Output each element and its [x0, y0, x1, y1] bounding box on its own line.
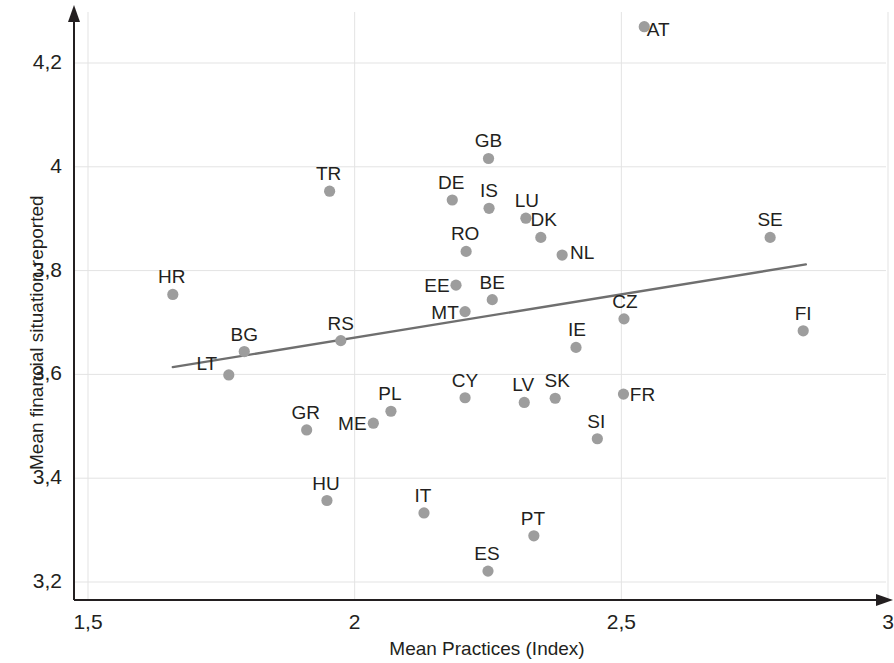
- y-axis-title: Mean financial situation reported: [26, 195, 48, 470]
- data-point: [321, 495, 332, 506]
- data-point: [483, 153, 494, 164]
- chart-canvas: [0, 0, 894, 663]
- point-label: NL: [552, 243, 612, 262]
- x-axis-title: Mean Practices (Index): [287, 638, 687, 660]
- point-label: BG: [214, 325, 274, 344]
- data-point: [167, 289, 178, 300]
- y-tick-label: 4: [50, 154, 62, 178]
- y-tick-label: 3,2: [33, 569, 62, 593]
- point-label: CZ: [595, 292, 655, 311]
- y-tick-label: 4,2: [33, 50, 62, 74]
- data-point: [459, 392, 470, 403]
- point-label: RO: [435, 224, 495, 243]
- data-point: [618, 313, 629, 324]
- data-point: [301, 424, 312, 435]
- data-point: [324, 186, 335, 197]
- point-label: BE: [462, 273, 522, 292]
- point-label: HU: [296, 474, 356, 493]
- x-tick-label: 3: [848, 610, 894, 634]
- point-label: GR: [276, 403, 336, 422]
- gridlines: [74, 12, 888, 600]
- data-point: [239, 346, 250, 357]
- data-point: [487, 294, 498, 305]
- point-label: IE: [547, 320, 607, 339]
- data-point: [535, 232, 546, 243]
- point-label: LV: [493, 375, 553, 394]
- data-point: [528, 530, 539, 541]
- point-label: TR: [299, 164, 359, 183]
- point-label: EE: [407, 276, 467, 295]
- point-label: ES: [457, 544, 517, 563]
- point-label: FI: [773, 304, 833, 323]
- point-label: FR: [612, 385, 672, 404]
- x-tick-label: 1,5: [48, 610, 128, 634]
- point-label: SE: [740, 210, 800, 229]
- data-point: [570, 342, 581, 353]
- point-label: GB: [459, 131, 519, 150]
- data-point: [447, 194, 458, 205]
- point-label: HR: [142, 267, 202, 286]
- data-point: [461, 246, 472, 257]
- x-tick-label: 2: [315, 610, 395, 634]
- scatter-chart: 3,23,43,63,844,21,522,53 ATGBTRDEISLUDKS…: [0, 0, 894, 663]
- data-points: [167, 21, 809, 577]
- data-point: [418, 507, 429, 518]
- data-point: [765, 232, 776, 243]
- point-label: MT: [415, 303, 475, 322]
- data-point: [519, 397, 530, 408]
- data-point: [483, 203, 494, 214]
- data-point: [798, 325, 809, 336]
- point-label: PL: [360, 384, 420, 403]
- data-point: [592, 433, 603, 444]
- point-label: IT: [393, 486, 453, 505]
- plot-area: 3,23,43,63,844,21,522,53 ATGBTRDEISLUDKS…: [0, 0, 894, 663]
- point-label: CY: [435, 371, 495, 390]
- point-label: LU: [497, 191, 557, 210]
- point-label: LT: [177, 354, 237, 373]
- axis-lines: [68, 5, 893, 606]
- point-label: DK: [514, 210, 574, 229]
- point-label: PT: [503, 509, 563, 528]
- point-label: RS: [311, 314, 371, 333]
- data-point: [482, 566, 493, 577]
- point-label: AT: [628, 20, 688, 39]
- data-point: [335, 335, 346, 346]
- point-label: SI: [566, 412, 626, 431]
- x-tick-label: 2,5: [581, 610, 661, 634]
- data-point: [385, 406, 396, 417]
